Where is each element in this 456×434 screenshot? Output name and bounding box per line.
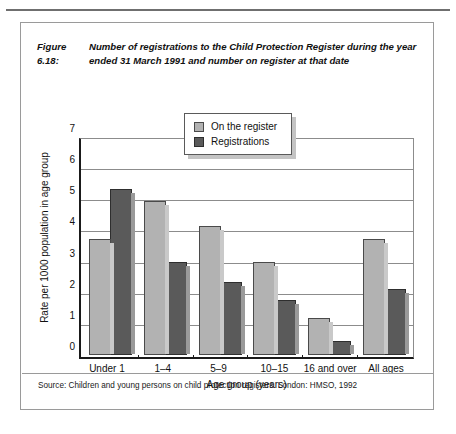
y-axis-tick-label: 2 [69, 278, 75, 289]
y-axis-tick-label: 3 [69, 247, 75, 258]
source-note: Source: Children and young persons on ch… [38, 381, 357, 390]
chart-legend: On the registerRegistrations [184, 113, 292, 155]
y-axis-tick-label: 5 [69, 185, 75, 196]
legend-swatch-icon [194, 122, 204, 132]
bar-on-the-register [89, 239, 111, 355]
bar-on-the-register [253, 262, 275, 355]
y-axis-title: Rate per 1000 population in age group [37, 116, 51, 359]
legend-swatch-icon [194, 137, 204, 147]
y-axis-tick-label: 0 [69, 341, 75, 352]
bar-on-the-register [363, 239, 385, 355]
bar-group [138, 161, 193, 355]
bar-group [302, 161, 357, 355]
legend-item: Registrations [194, 134, 277, 149]
figure-title: Number of registrations to the Child Pro… [89, 40, 419, 68]
legend-label: Registrations [211, 136, 269, 147]
bar-group [247, 161, 302, 355]
x-axis-tick-mark [193, 355, 194, 359]
figure-container: Figure 6.18: Number of registrations to … [20, 22, 434, 410]
page-header-rule [6, 9, 450, 11]
figure-label: Figure 6.18: [37, 40, 89, 68]
figure-caption: Figure 6.18: Number of registrations to … [37, 40, 419, 68]
x-axis-tick-mark [138, 355, 139, 359]
legend-label: On the register [211, 121, 277, 132]
bar-on-the-register [308, 318, 330, 355]
bar-on-the-register [144, 201, 166, 355]
y-axis-tick-label: 6 [69, 154, 75, 165]
bar-group [357, 161, 412, 355]
source-divider [22, 373, 434, 374]
bar-group [83, 161, 138, 355]
y-axis-title-text: Rate per 1000 population in age group [39, 152, 50, 323]
x-axis-tick-mark [247, 355, 248, 359]
x-axis-tick-mark [357, 355, 358, 359]
legend-item: On the register [194, 119, 277, 134]
bar-on-the-register [199, 226, 221, 355]
bar-series-layer [83, 161, 412, 355]
plot-frame: 01234567 [79, 138, 414, 359]
y-axis-tick-label: 4 [69, 216, 75, 227]
x-axis-tick-mark [302, 355, 303, 359]
y-axis-tick-label: 1 [69, 309, 75, 320]
bar-group [193, 161, 248, 355]
y-axis-tick-label: 7 [69, 123, 75, 134]
